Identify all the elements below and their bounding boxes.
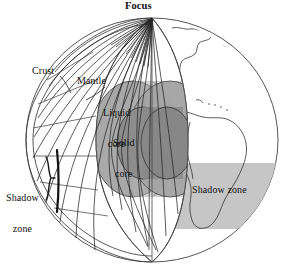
label-shadow-zone-left-line1: Shadow (6, 193, 39, 203)
label-focus: Focus (125, 1, 152, 12)
label-solid-core-line1: Solid (113, 138, 135, 148)
label-solid-core: Solid core (113, 118, 135, 189)
earth-shadow-zone-diagram (0, 0, 295, 268)
label-crust: Crust (32, 66, 54, 76)
label-solid-core-line2: core (113, 169, 135, 179)
label-shadow-zone-left: Shadow zone (6, 173, 39, 244)
label-mantle: Mantle (77, 76, 106, 86)
label-shadow-zone-left-line2: zone (6, 224, 39, 234)
label-shadow-zone-right: Shadow zone (192, 185, 247, 195)
solid-core-ellipse-right (141, 107, 193, 179)
